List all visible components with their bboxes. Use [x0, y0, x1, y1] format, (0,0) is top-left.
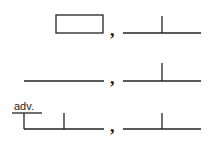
row1-box: [56, 15, 103, 33]
row2-comma: ,: [110, 68, 115, 88]
row3-comma: ,: [110, 116, 115, 136]
sentence-diagram: , , , adv.: [0, 0, 214, 142]
row1-comma: ,: [110, 20, 115, 40]
adverb-label: adv.: [14, 100, 34, 112]
